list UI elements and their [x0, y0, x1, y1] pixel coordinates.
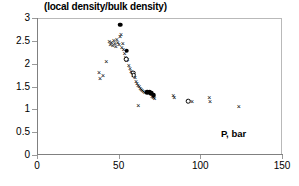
x-tick	[282, 155, 283, 159]
data-point-x	[135, 103, 141, 109]
x-tick-label: 150	[262, 160, 299, 171]
y-tick-label: 1	[0, 104, 30, 114]
chart-title: (local density/bulk density)	[44, 1, 167, 12]
y-axis-line	[37, 18, 38, 155]
x-tick-label: 0	[17, 160, 57, 171]
data-point-x	[207, 99, 213, 105]
data-point-o-filled	[151, 93, 156, 98]
data-point-o-open	[124, 57, 129, 62]
data-point-o-open	[186, 99, 191, 104]
data-point-o-open	[131, 73, 136, 78]
data-point-x	[100, 73, 106, 79]
data-point-x	[171, 95, 177, 101]
data-point-x	[103, 59, 109, 65]
chart-canvas: (local density/bulk density) 00.511.522.…	[0, 0, 299, 186]
y-tick	[32, 109, 37, 110]
y-tick-label: 2	[0, 59, 30, 69]
x-tick-label: 100	[180, 160, 220, 171]
y-tick	[32, 18, 37, 19]
x-tick-label: 50	[99, 160, 139, 171]
y-tick-label: 1.5	[0, 82, 30, 92]
data-point-o-filled	[118, 23, 123, 28]
x-tick	[200, 155, 201, 159]
y-tick-label: 2.5	[0, 36, 30, 46]
data-point-x	[118, 32, 124, 38]
data-point-x	[236, 104, 242, 110]
data-point-o-filled	[125, 49, 130, 54]
x-axis-title: P, bar	[221, 128, 246, 139]
y-tick-label: 0	[0, 150, 30, 160]
y-tick-label: 3	[0, 13, 30, 23]
x-tick	[37, 155, 38, 159]
y-tick	[32, 64, 37, 65]
x-tick	[119, 155, 120, 159]
x-axis-line	[37, 154, 283, 155]
y-tick	[32, 132, 37, 133]
y-tick	[32, 87, 37, 88]
y-tick	[32, 41, 37, 42]
y-tick-label: 0.5	[0, 127, 30, 137]
